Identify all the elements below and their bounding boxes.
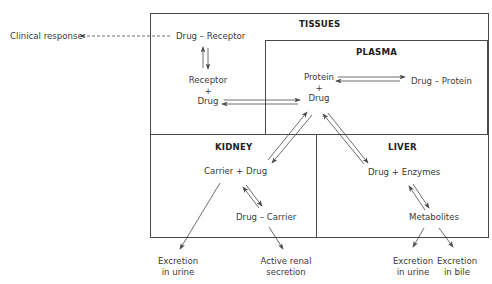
- plasma-liver-arrows: [323, 113, 368, 164]
- receptor-equilibrium-arrows: [203, 47, 208, 69]
- kidney-excretion-urine-label: Excretion in urine: [156, 256, 200, 277]
- protein-drug-node: Protein + Drug: [301, 72, 337, 104]
- receptor-label: Receptor: [186, 75, 230, 86]
- drug-label: Drug: [186, 96, 230, 107]
- drug-carrier-label: Drug – Carrier: [236, 212, 296, 223]
- plasma-kidney-arrows: [268, 112, 312, 163]
- excretion-text: Excretion: [435, 256, 479, 267]
- metabolism-arrows: [409, 184, 429, 210]
- plus-label: +: [301, 83, 337, 94]
- liver-excretion-urine-label: Excretion in urine: [391, 256, 435, 277]
- drug-enzymes-label: Drug + Enzymes: [368, 167, 440, 178]
- tissues-header: TISSUES: [299, 19, 341, 29]
- kidney-urine-arrow: [180, 183, 220, 249]
- kidney-header: KIDNEY: [215, 142, 252, 152]
- carrier-drug-label: Carrier + Drug: [204, 166, 267, 177]
- in-urine-text: in urine: [156, 267, 200, 278]
- liver-header: LIVER: [388, 142, 417, 152]
- drug-receptor-label: Drug – Receptor: [176, 31, 245, 42]
- active-renal-secretion-label: Active renal secretion: [258, 256, 314, 277]
- secretion-text: secretion: [258, 267, 314, 278]
- excretion-bile-label: Excretion in bile: [435, 256, 479, 277]
- excretion-text: Excretion: [156, 256, 200, 267]
- clinical-response-label: Clinical response: [10, 31, 83, 42]
- drug-label: Drug: [301, 93, 337, 104]
- active-renal-text: Active renal: [258, 256, 314, 267]
- tissues-box: [151, 14, 489, 238]
- excretion-text: Excretion: [391, 256, 435, 267]
- carrier-equilibrium-arrows: [243, 185, 262, 208]
- in-urine-text: in urine: [391, 267, 435, 278]
- in-bile-text: in bile: [435, 267, 479, 278]
- receptor-drug-node: Receptor + Drug: [186, 75, 230, 107]
- protein-label: Protein: [301, 72, 337, 83]
- metabolites-label: Metabolites: [409, 212, 459, 223]
- plus-label: +: [186, 86, 230, 97]
- tissue-plasma-equilibrium-arrows: [222, 100, 300, 104]
- drug-protein-label: Drug – Protein: [411, 76, 472, 87]
- plasma-header: PLASMA: [356, 47, 397, 57]
- protein-binding-arrows: [336, 77, 405, 81]
